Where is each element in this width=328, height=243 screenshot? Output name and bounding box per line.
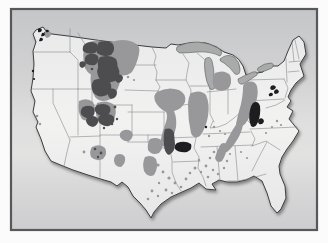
- deposit-patch-medium-dot: [156, 163, 159, 166]
- deposit-patch-dark-dot: [116, 118, 118, 120]
- deposit-patch-medium-dot: [167, 176, 170, 179]
- deposit-patch-medium-dot: [205, 165, 208, 168]
- deposit-patch-medium-dot: [83, 151, 86, 154]
- deposit-patch-dark-dot: [103, 127, 105, 129]
- deposit-patch-black: [175, 142, 192, 152]
- deposit-patch-black-dot: [33, 78, 35, 80]
- deposit-patch-medium-dot: [147, 198, 150, 201]
- deposit-patch-medium-dot: [36, 115, 39, 118]
- deposit-patch-dark-dot: [111, 123, 114, 126]
- deposit-patch-black-dot: [205, 126, 207, 128]
- deposit-patch-medium-dot: [194, 167, 197, 170]
- deposit-patch-medium-dot: [209, 157, 212, 160]
- deposit-patch-dark-dot: [97, 156, 99, 158]
- deposit-patch-medium-dot: [224, 133, 226, 135]
- deposit-patch-medium-dot: [226, 160, 228, 162]
- deposit-patch-medium-dot: [207, 176, 210, 179]
- deposit-patch-dark-dot: [105, 49, 107, 51]
- deposit-patch-medium-dot: [240, 151, 242, 153]
- deposit-patch-medium-dot: [271, 126, 273, 128]
- deposit-patch-medium-dot: [127, 76, 129, 78]
- figure-canvas: [0, 0, 328, 243]
- deposit-patch-medium-dot: [208, 135, 210, 137]
- deposit-patch-medium-dot: [165, 189, 168, 192]
- deposit-patch-medium-dot: [174, 182, 177, 185]
- deposit-patch-dark: [85, 54, 99, 65]
- deposit-patch-medium-dot: [185, 178, 188, 181]
- deposit-patch-medium-dot: [171, 192, 173, 194]
- deposit-patch-dark: [164, 129, 175, 156]
- deposit-patch-medium-dot: [219, 130, 221, 132]
- deposit-patch-dark-dot: [100, 152, 103, 155]
- deposit-patch-medium-dot: [198, 159, 200, 161]
- deposit-patch-dark-dot: [94, 148, 97, 151]
- deposit-patch-medium-dot: [223, 167, 225, 169]
- deposit-patch-dark-dot: [114, 106, 117, 109]
- deposit-patch-medium-dot: [158, 182, 160, 184]
- deposit-patch-medium-dot: [200, 171, 202, 173]
- deposit-patch-medium-dot: [246, 157, 248, 159]
- deposit-patch-medium-dot: [276, 120, 278, 122]
- deposit-patch-medium-dot: [180, 186, 183, 189]
- deposit-patch-medium-dot: [157, 195, 159, 197]
- deposit-patch-medium-dot: [217, 173, 219, 175]
- deposit-patch-medium-dot: [265, 132, 267, 134]
- deposit-patch-dark-dot: [91, 68, 94, 71]
- deposit-patch-medium-dot: [151, 190, 154, 193]
- deposit-patch-medium: [143, 156, 157, 176]
- deposit-patch-medium: [213, 71, 231, 90]
- deposit-patch-medium-dot: [229, 153, 231, 155]
- deposit-patch-medium-dot: [189, 172, 192, 175]
- deposit-patch-medium-dot: [220, 156, 222, 158]
- deposit-patch-black-dot: [32, 70, 34, 72]
- deposit-patch-medium-dot: [133, 79, 135, 81]
- deposit-patch-medium-dot: [213, 126, 215, 128]
- deposit-patch-medium-dot: [162, 171, 165, 174]
- us-deposits-map: [0, 0, 328, 243]
- deposit-patch-dark: [97, 41, 114, 56]
- deposit-patch-medium-dot: [212, 169, 214, 171]
- deposit-patch-medium-dot: [280, 124, 282, 126]
- deposit-patch-medium-dot: [213, 151, 216, 154]
- deposit-patch-medium-dot: [39, 123, 41, 125]
